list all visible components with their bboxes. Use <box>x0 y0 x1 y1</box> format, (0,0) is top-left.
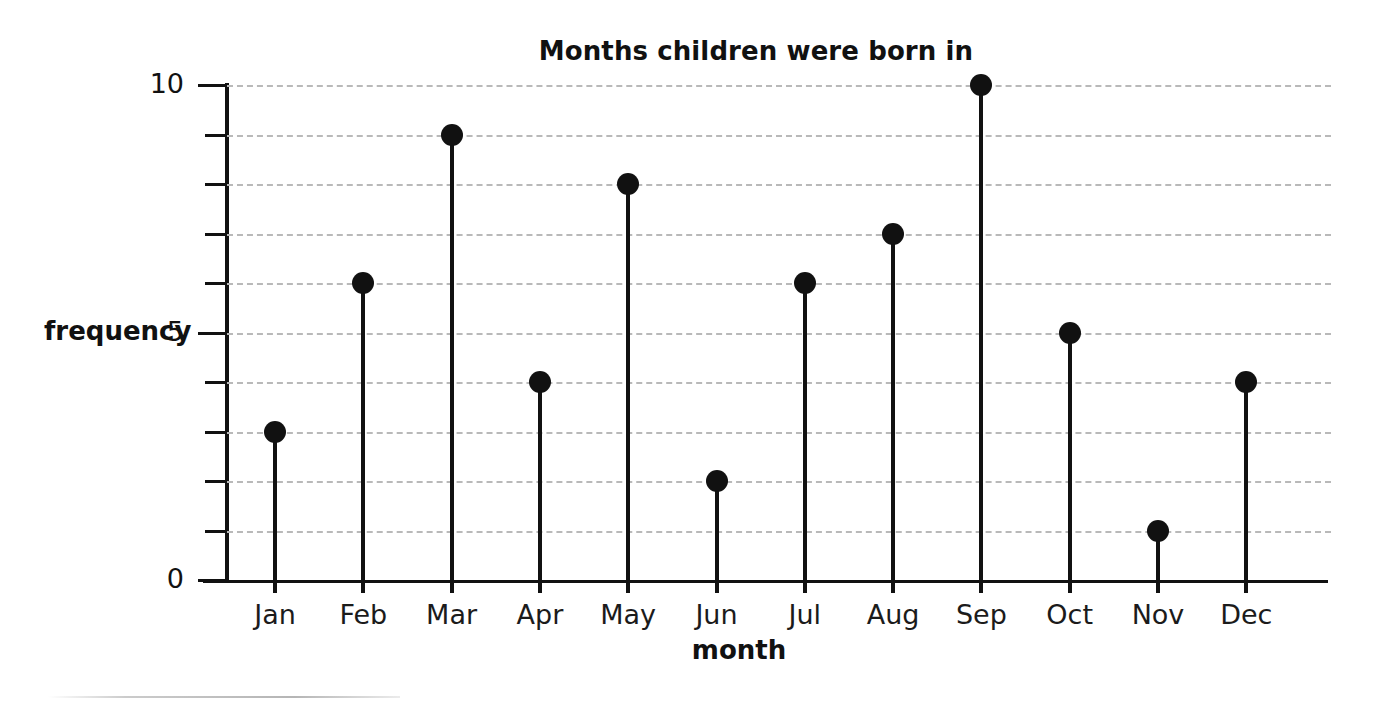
y-axis-tick <box>205 282 227 285</box>
data-point-marker <box>617 173 639 195</box>
y-axis-tick <box>205 233 227 236</box>
x-axis-tick <box>979 580 983 593</box>
stem-line <box>273 432 277 581</box>
x-axis-tick <box>715 580 719 593</box>
x-axis-tick <box>538 580 542 593</box>
gridline <box>227 184 1331 186</box>
stem-line <box>715 481 719 580</box>
x-axis-tick <box>450 580 454 593</box>
data-point-marker <box>882 223 904 245</box>
page-edge-artifact <box>48 696 400 698</box>
x-axis-tick <box>891 580 895 593</box>
chart-page: Months children were born in frequency m… <box>0 0 1380 705</box>
x-axis-category-label: Dec <box>1186 601 1306 628</box>
y-axis-tick-label: 0 <box>167 565 184 592</box>
gridline <box>227 333 1331 335</box>
stem-line <box>891 234 895 581</box>
x-axis-tick <box>1156 580 1160 593</box>
gridline <box>227 283 1331 285</box>
x-axis-tick <box>803 580 807 593</box>
y-axis-tick <box>205 134 227 137</box>
data-point-marker <box>1059 322 1081 344</box>
stem-line <box>1244 382 1248 580</box>
plot-area: 0510 JanFebMarAprMayJunJulAugSepOctNovDe… <box>225 85 1328 580</box>
y-axis-tick-label: 10 <box>150 70 184 97</box>
data-point-marker <box>1235 371 1257 393</box>
x-axis-tick <box>1244 580 1248 593</box>
y-axis-tick <box>205 530 227 533</box>
y-axis-tick <box>205 480 227 483</box>
stem-line <box>450 135 454 581</box>
x-axis-tick <box>361 580 365 593</box>
x-axis-tick <box>1068 580 1072 593</box>
data-point-marker <box>352 272 374 294</box>
x-axis-tick <box>273 580 277 593</box>
data-point-marker <box>970 74 992 96</box>
x-axis-title-text: month <box>692 635 786 665</box>
stem-line <box>979 85 983 580</box>
stem-line <box>361 283 365 580</box>
stem-line <box>538 382 542 580</box>
data-point-marker <box>264 421 286 443</box>
stem-line <box>626 184 630 580</box>
data-point-marker <box>794 272 816 294</box>
y-axis-tick <box>205 183 227 186</box>
stem-line <box>1068 333 1072 581</box>
data-point-marker <box>529 371 551 393</box>
x-axis-tick <box>626 580 630 593</box>
gridline <box>227 481 1331 483</box>
y-axis-tick: 5 <box>198 332 227 335</box>
data-point-marker <box>706 470 728 492</box>
data-point-marker <box>1147 520 1169 542</box>
data-point-marker <box>441 124 463 146</box>
x-axis-title: month <box>0 635 1380 665</box>
y-axis-tick: 10 <box>198 84 227 87</box>
gridline <box>227 135 1331 137</box>
y-axis-tick <box>205 431 227 434</box>
chart-title-text: Months children were born in <box>539 36 973 66</box>
gridline <box>227 382 1331 384</box>
gridline <box>227 85 1331 87</box>
y-axis-tick <box>205 381 227 384</box>
y-axis-tick: 0 <box>198 579 227 582</box>
gridline <box>227 234 1331 236</box>
stem-line <box>803 283 807 580</box>
gridline <box>227 432 1331 434</box>
y-axis-tick-label: 5 <box>167 317 184 344</box>
chart-title: Months children were born in <box>0 36 1380 66</box>
